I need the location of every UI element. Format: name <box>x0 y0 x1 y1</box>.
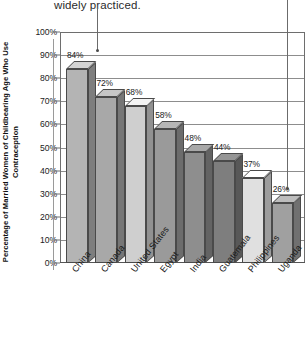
y-tick-mark <box>53 216 60 217</box>
bar <box>125 106 147 263</box>
bar-front-face <box>125 106 147 263</box>
y-tick-mark <box>53 124 60 125</box>
bar-side-face <box>176 122 184 263</box>
y-tick-mark <box>53 170 60 171</box>
y-tick-label: 60% <box>17 119 57 129</box>
data-label: 72% <box>96 78 112 88</box>
data-label: 68% <box>126 87 142 97</box>
bar <box>66 69 88 263</box>
y-tick-label: 80% <box>17 73 57 83</box>
leader-dot-right <box>286 187 289 190</box>
y-tick-mark <box>53 193 60 194</box>
bar-front-face <box>95 97 117 263</box>
y-tick-label: 40% <box>17 166 57 176</box>
y-tick-label: 0% <box>17 258 57 268</box>
gridline <box>60 55 305 56</box>
y-tick-mark <box>53 101 60 102</box>
y-tick-label: 90% <box>17 50 57 60</box>
chart-figure: widely practiced. Percentage of Married … <box>0 0 306 337</box>
bar-side-face <box>88 62 96 263</box>
y-tick-mark <box>53 263 60 264</box>
data-label: 44% <box>214 142 230 152</box>
y-tick-mark <box>53 55 60 56</box>
plot-right-border <box>304 32 305 263</box>
data-label: 37% <box>243 159 259 169</box>
y-tick-label: 30% <box>17 189 57 199</box>
plot-depth-wall <box>53 39 54 270</box>
y-tick-label: 70% <box>17 96 57 106</box>
y-tick-mark <box>53 147 60 148</box>
y-tick-label: 20% <box>17 212 57 222</box>
bar <box>184 152 206 263</box>
data-label: 58% <box>155 110 171 120</box>
bar-front-face <box>184 152 206 263</box>
bar-side-face <box>117 90 125 263</box>
y-axis-line <box>60 32 61 263</box>
y-tick-mark <box>53 32 60 33</box>
y-tick-mark <box>53 78 60 79</box>
leader-line-left <box>97 8 98 50</box>
data-label: 84% <box>67 50 83 60</box>
plot-area <box>60 32 305 263</box>
y-tick-label: 100% <box>17 27 57 37</box>
bar <box>95 97 117 263</box>
data-label: 48% <box>185 133 201 143</box>
bar-side-face <box>205 145 213 263</box>
y-tick-label: 10% <box>17 235 57 245</box>
leader-dot-left <box>96 49 99 52</box>
y-tick-label: 50% <box>17 143 57 153</box>
leader-line-right <box>287 0 288 188</box>
y-tick-mark <box>53 239 60 240</box>
bar-front-face <box>66 69 88 263</box>
